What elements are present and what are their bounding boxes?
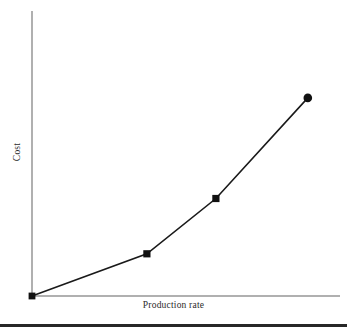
x-axis-label: Production rate xyxy=(0,301,347,311)
cost-curve-line xyxy=(32,98,308,296)
data-point-marker-0 xyxy=(29,293,36,300)
data-point-marker-3 xyxy=(304,94,313,103)
data-point-marker-1 xyxy=(143,250,150,257)
chart-figure: Cost Production rate xyxy=(0,0,347,333)
data-point-marker-2 xyxy=(212,195,219,202)
chart-plot-area xyxy=(0,0,347,333)
bottom-horizontal-rule xyxy=(0,324,347,327)
y-axis-label: Cost xyxy=(13,132,23,172)
